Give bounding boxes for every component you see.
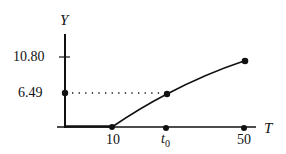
chart-plot <box>0 0 286 154</box>
y-axis-label: Y <box>60 13 68 28</box>
y-tick-label-mid: 6.49 <box>18 86 43 100</box>
x-axis-label: T <box>264 121 272 136</box>
marker-x-10 <box>109 124 115 130</box>
x-tick-label-t0: t0 <box>161 132 170 149</box>
marker-50-axis <box>241 125 247 131</box>
marker-t0-curve <box>164 91 170 97</box>
marker-y-6-49 <box>62 90 68 96</box>
y-tick-label-high: 10.80 <box>13 50 45 64</box>
marker-50-curve <box>242 58 249 65</box>
curve <box>112 61 244 127</box>
x-tick-label-t0-sub: 0 <box>165 138 170 149</box>
x-tick-label-10: 10 <box>106 133 120 147</box>
x-tick-label-50: 50 <box>237 133 251 147</box>
